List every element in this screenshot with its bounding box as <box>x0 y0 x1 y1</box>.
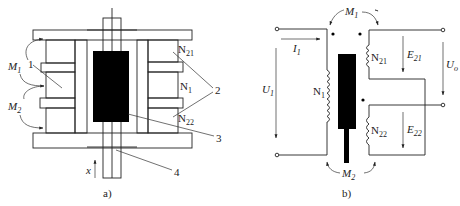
label-uo: Uo <box>446 58 458 73</box>
left-separator-1 <box>41 63 75 72</box>
left-coil-n21 <box>46 40 75 63</box>
coil-n21 <box>367 45 370 67</box>
core-b <box>338 54 356 129</box>
right-coil-n1 <box>148 72 178 98</box>
polarity-dot-n22 <box>361 98 364 101</box>
caption-a: a) <box>103 187 112 200</box>
label-e22: E22 <box>406 123 422 138</box>
label-part-2: 2 <box>215 84 221 96</box>
polarity-dot-n21 <box>358 32 361 35</box>
right-separator-2 <box>148 98 183 108</box>
label-m2-a: M2 <box>7 100 21 115</box>
terminal-primary-top <box>275 27 279 31</box>
top-yoke-plate <box>33 30 192 40</box>
iron-core <box>93 51 129 122</box>
lvdt-figure: M1 M2 1 N21 N1 N22 2 3 4 x a) <box>0 0 460 206</box>
left-inner-wall <box>75 40 87 133</box>
m1-arrow-up <box>26 39 43 60</box>
right-coil-n21 <box>148 40 178 62</box>
label-part-1: 1 <box>28 58 34 70</box>
m1-arc-left <box>330 10 344 25</box>
bottom-yoke-plate <box>33 133 192 148</box>
rod-b <box>344 129 349 163</box>
leader-part-2-bottom <box>173 92 213 117</box>
leader-part-1 <box>33 65 62 88</box>
m2-arc-right <box>364 162 375 173</box>
m1-arc-right <box>362 12 378 25</box>
m2-arrow-up <box>24 86 44 99</box>
label-u1: U1 <box>262 83 274 98</box>
label-n21-b: N21 <box>371 51 387 66</box>
m1-arc-mid <box>375 10 378 11</box>
terminal-primary-bottom <box>275 153 279 157</box>
label-n22-a: N22 <box>178 112 194 127</box>
label-n1-b: N1 <box>313 85 325 100</box>
left-coil-n1 <box>46 72 75 98</box>
label-m1-b: M1 <box>344 5 358 20</box>
m2-arrow-down <box>20 115 43 128</box>
label-n1-a: N1 <box>180 80 192 95</box>
label-m2-b: M2 <box>341 167 355 182</box>
left-coil-n22 <box>46 108 75 133</box>
coil-n1 <box>327 70 330 122</box>
panel-b-circuit: I1 U1 N1 N21 N22 E21 E22 <box>262 5 458 200</box>
coil-n22 <box>367 117 370 145</box>
label-m1-a: M1 <box>7 60 21 75</box>
label-n21-a: N21 <box>178 43 194 58</box>
label-n22-b: N22 <box>371 124 387 139</box>
label-part-3: 3 <box>216 132 222 144</box>
m1-arrow-down <box>20 74 44 86</box>
terminal-output-top <box>441 28 445 32</box>
label-e21: E21 <box>406 48 422 63</box>
left-separator-2 <box>40 98 75 108</box>
label-part-4: 4 <box>174 166 180 178</box>
label-i1: I1 <box>292 42 301 57</box>
polarity-dot-n1 <box>331 32 334 35</box>
terminal-output-bottom <box>441 103 445 107</box>
panel-a-sectional-view: M1 M2 1 N21 N1 N22 2 3 4 x a) <box>7 8 222 200</box>
leader-part-4 <box>116 150 172 170</box>
m2-arc-left <box>327 162 340 173</box>
label-x: x <box>85 164 91 176</box>
caption-b: b) <box>342 187 352 200</box>
right-separator-1 <box>148 62 183 72</box>
